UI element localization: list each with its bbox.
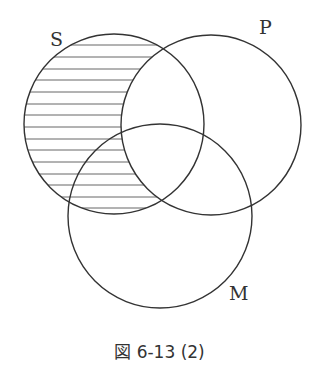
label-p: P <box>259 18 272 37</box>
venn-diagram <box>0 0 319 376</box>
figure-caption: 図 6-13 (2) <box>0 338 319 363</box>
circle-s <box>24 34 204 214</box>
label-s: S <box>50 30 63 49</box>
circle-m <box>68 124 252 308</box>
hatch-region-s-minus-p <box>0 45 319 208</box>
label-m: M <box>229 284 248 303</box>
